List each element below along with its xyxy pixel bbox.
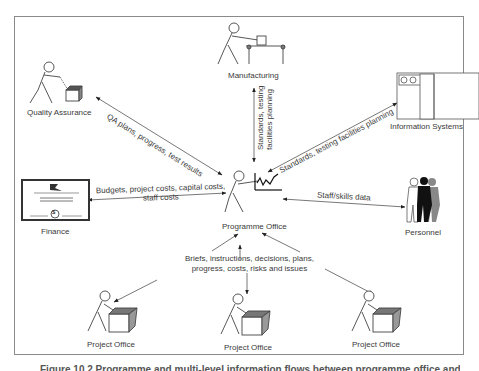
node-label-finance: Finance bbox=[41, 227, 69, 236]
finance-certificate-icon bbox=[22, 180, 89, 220]
information-systems-icon bbox=[397, 73, 479, 119]
node-label-personnel: Personnel bbox=[405, 228, 441, 237]
personnel-icon bbox=[407, 177, 440, 222]
project-office-icon-2 bbox=[221, 294, 270, 335]
diagram-canvas: Quality Assurance Manufacturing Informat… bbox=[0, 0, 479, 371]
project-office-icon-1 bbox=[88, 291, 137, 332]
edge-label-projects: Briefs, instructions, decisions, plans, … bbox=[185, 254, 314, 274]
node-label-quality-assurance: Quality Assurance bbox=[27, 108, 91, 117]
edge-label-projects-line1: Briefs, instructions, decisions, plans, bbox=[185, 254, 314, 264]
node-label-project-office-1: Project Office bbox=[87, 340, 135, 349]
certificate-dollar-symbol: $ bbox=[52, 209, 55, 215]
diagram-graphics bbox=[0, 0, 479, 371]
node-label-project-office-2: Project Office bbox=[224, 343, 272, 352]
figure-caption: Figure 10.2 Programme and multi-level in… bbox=[40, 364, 460, 371]
node-label-information-systems: Information Systems bbox=[390, 122, 463, 131]
edge-label-manufacturing-line2: facilities planning bbox=[265, 86, 274, 150]
manufacturing-icon bbox=[218, 23, 285, 64]
edge-label-manufacturing-line1: Standards, testing bbox=[256, 86, 265, 150]
programme-office-icon bbox=[225, 171, 282, 212]
project-office-icon-3 bbox=[352, 291, 401, 332]
node-label-manufacturing: Manufacturing bbox=[228, 71, 279, 80]
edge-label-projects-line2: progress, costs, risks and issues bbox=[185, 264, 314, 274]
node-label-programme-office: Programme Office bbox=[222, 222, 287, 231]
quality-assurance-icon bbox=[30, 62, 82, 103]
edge-label-manufacturing: Standards, testing facilities planning bbox=[256, 86, 274, 150]
node-label-project-office-3: Project Office bbox=[352, 340, 400, 349]
